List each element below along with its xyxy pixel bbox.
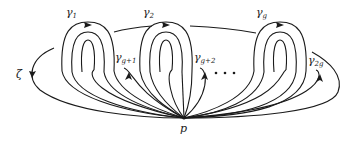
base-point xyxy=(182,116,185,119)
label-gamma-g: γg xyxy=(256,6,268,20)
gamma-2-arrow-icon xyxy=(162,22,170,28)
label-gamma-g-plus-1: γg+1 xyxy=(115,51,136,65)
label-gamma-2g: γ2g xyxy=(308,54,324,68)
gamma-2g-arrow-icon xyxy=(316,74,323,82)
ellipsis xyxy=(215,72,236,75)
label-gamma-g-plus-2: γg+2 xyxy=(194,51,216,65)
label-p: p xyxy=(180,122,187,135)
label-zeta: ζ xyxy=(16,68,23,81)
label-gamma-2: γ2 xyxy=(143,6,155,20)
loop-gamma-g-plus-2 xyxy=(184,68,208,118)
loop-gamma-1 xyxy=(62,22,184,118)
zeta-arrow-icon xyxy=(29,71,36,78)
gamma-g-plus-1-arrow-icon xyxy=(125,72,132,80)
surface-loop-diagram: ζ γ1 γ2 γg γg+1 γg+2 γ2g p xyxy=(0,0,358,142)
gamma-g-plus-2-arrow-icon xyxy=(201,72,208,80)
label-gamma-1: γ1 xyxy=(66,6,77,20)
gamma-g-arrow-icon xyxy=(276,22,284,28)
gamma-1-arrow-icon xyxy=(84,22,92,28)
